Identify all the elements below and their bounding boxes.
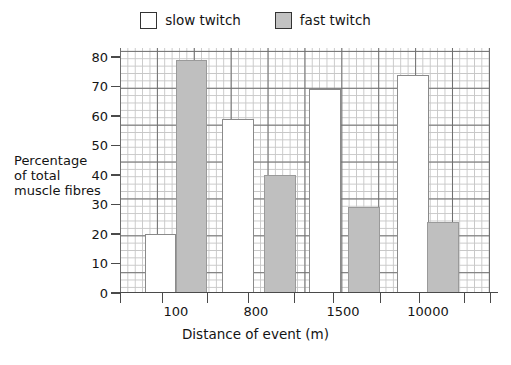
x-tick-3 (248, 293, 249, 303)
y-tick-label-wrap-10: 10 (78, 257, 108, 270)
y-tick-label-wrap-80: 80 (78, 51, 108, 64)
x-tick-9 (490, 293, 491, 303)
bar-chart-figure: slow twitch fast twitch 0102030405060708… (0, 0, 511, 365)
x-tick-label-100: 100 (136, 305, 216, 318)
chart-legend: slow twitch fast twitch (0, 12, 511, 29)
x-tick-5 (333, 293, 334, 303)
bar-fast-twitch-1500 (348, 207, 380, 293)
y-tick-label-wrap-60: 60 (78, 110, 108, 123)
bar-fast-twitch-800 (264, 175, 296, 293)
y-tick-label-wrap-30: 30 (78, 198, 108, 211)
x-tick-label-1500: 1500 (303, 305, 383, 318)
x-tick-0 (120, 293, 121, 303)
y-tick-label-wrap-70: 70 (78, 80, 108, 93)
x-axis-title: Distance of event (m) (0, 328, 511, 342)
x-tick-7 (419, 293, 420, 303)
y-tick-60 (111, 115, 120, 116)
x-tick-6 (380, 293, 381, 303)
y-tick-70 (111, 86, 120, 87)
legend-label-fast-twitch: fast twitch (300, 14, 371, 28)
plot-area (120, 48, 490, 293)
legend-item-fast-twitch: fast twitch (275, 12, 371, 29)
bar-slow-twitch-10000 (397, 75, 429, 293)
y-axis-title-line-2: of total (14, 168, 106, 183)
legend-swatch-fast-twitch-icon (275, 12, 292, 29)
x-tick-4 (294, 293, 295, 303)
y-axis-title-line-1: Percentage (14, 153, 106, 168)
y-tick-label-30: 30 (78, 198, 108, 211)
bar-fast-twitch-10000 (427, 222, 459, 293)
y-tick-40 (111, 174, 120, 175)
x-tick-2 (207, 293, 208, 303)
y-tick-0 (111, 292, 120, 293)
y-axis-title: Percentage of total muscle fibres (14, 153, 106, 198)
x-tick-1 (162, 293, 163, 303)
legend-swatch-slow-twitch-icon (140, 12, 157, 29)
y-tick-label-wrap-50: 50 (78, 139, 108, 152)
y-tick-label-wrap-20: 20 (78, 228, 108, 241)
y-tick-label-10: 10 (78, 257, 108, 270)
legend-label-slow-twitch: slow twitch (165, 14, 241, 28)
x-tick-label-10000: 10000 (388, 305, 468, 318)
y-tick-label-70: 70 (78, 80, 108, 93)
y-tick-10 (111, 263, 120, 264)
legend-item-slow-twitch: slow twitch (140, 12, 241, 29)
x-axis-line (112, 292, 498, 293)
y-tick-label-wrap-0: 0 (78, 287, 108, 300)
bar-slow-twitch-1500 (309, 89, 341, 293)
y-tick-label-20: 20 (78, 228, 108, 241)
y-tick-80 (111, 56, 120, 57)
bar-slow-twitch-800 (222, 119, 254, 293)
y-tick-30 (111, 204, 120, 205)
y-tick-50 (111, 145, 120, 146)
x-tick-label-800: 800 (216, 305, 296, 318)
bar-fast-twitch-100 (176, 60, 207, 293)
y-tick-label-80: 80 (78, 51, 108, 64)
y-tick-label-60: 60 (78, 110, 108, 123)
y-tick-label-0: 0 (78, 287, 108, 300)
y-axis-title-line-3: muscle fibres (14, 183, 106, 198)
bar-slow-twitch-100 (145, 234, 176, 293)
x-tick-8 (464, 293, 465, 303)
y-tick-20 (111, 233, 120, 234)
y-tick-label-50: 50 (78, 139, 108, 152)
